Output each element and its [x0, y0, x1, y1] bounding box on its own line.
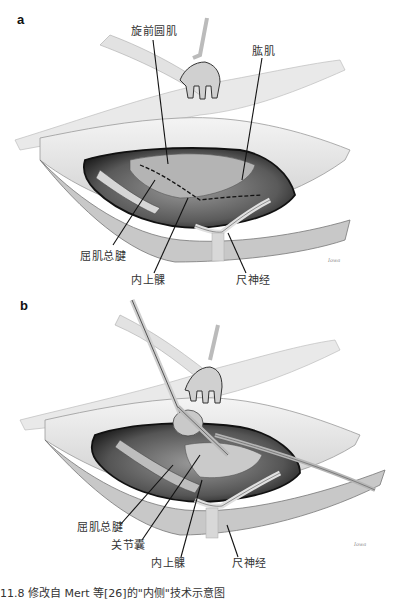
figure-panel-b: b 屈肌总腱 关节囊 内上髁 尺神经 Iowa: [0, 295, 406, 575]
label-brachialis: 肱肌: [252, 42, 275, 58]
illustrator-signature-b: Iowa: [354, 541, 366, 547]
surgical-illustration-b: [0, 295, 406, 575]
label-common-flexor-tendon: 屈肌总腱: [80, 247, 126, 263]
label-ulnar-nerve: 尺神经: [236, 271, 271, 287]
label-pronator-teres: 旋前圆肌: [131, 22, 177, 38]
panel-letter-a: a: [17, 12, 24, 27]
label-joint-capsule: 关节囊: [111, 536, 146, 552]
figure-caption: 11.8 修改自 Mert 等[26]的"内侧"技术示意图: [0, 584, 225, 600]
illustrator-signature-a: Iowa: [328, 257, 340, 263]
figure-panel-a: a 旋前圆肌 肱肌 屈肌总腱 内上髁 尺神经 Iowa: [0, 0, 406, 295]
label-common-flexor-tendon: 屈肌总腱: [77, 518, 123, 534]
surgical-illustration-a: [0, 0, 406, 295]
label-medial-epicondyle: 内上髁: [151, 554, 186, 570]
label-ulnar-nerve: 尺神经: [232, 554, 267, 570]
panel-letter-b: b: [20, 298, 28, 313]
label-medial-epicondyle: 内上髁: [131, 271, 166, 287]
